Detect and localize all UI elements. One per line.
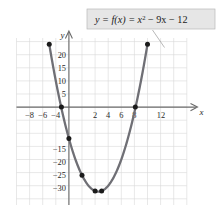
- y-tick-label: 5: [62, 90, 66, 99]
- x-tick-label: −4: [51, 111, 61, 120]
- y-axis-label: y: [60, 30, 65, 40]
- parabola-plot: x y −8 −6 −4 2 4 6 8 12 20 15 10 5 −15 −…: [0, 0, 217, 219]
- y-tick-label: 20: [58, 51, 66, 60]
- data-point: [133, 105, 138, 110]
- y-tick-label: 15: [58, 64, 66, 73]
- equation-label: y = f(x) = x2 − 9x − 12: [94, 14, 187, 27]
- x-tick-label: 2: [93, 111, 97, 120]
- y-tick-label: −15: [53, 145, 66, 154]
- graph-figure: x y −8 −6 −4 2 4 6 8 12 20 15 10 5 −15 −…: [0, 0, 217, 219]
- x-axis-label: x: [199, 107, 204, 117]
- y-tick-label: −25: [53, 171, 66, 180]
- x-tick-label: 6: [119, 111, 123, 120]
- data-point: [99, 188, 104, 193]
- y-tick-label: −30: [53, 184, 66, 193]
- data-point: [93, 188, 98, 193]
- data-point: [47, 42, 52, 47]
- y-tick-label: −20: [53, 158, 66, 167]
- data-point: [145, 42, 150, 47]
- x-tick-label: −6: [38, 111, 47, 120]
- x-tick-label: −8: [25, 111, 34, 120]
- data-point: [80, 173, 85, 178]
- x-tick-label: 12: [157, 111, 165, 120]
- data-point: [59, 105, 64, 110]
- data-point: [66, 136, 71, 141]
- y-tick-label: 10: [58, 77, 66, 86]
